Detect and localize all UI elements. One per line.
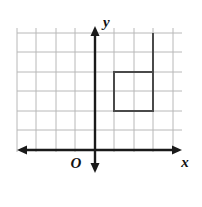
coordinate-grid-figure: y x O <box>0 0 202 207</box>
y-axis-arrow-up-icon <box>91 26 100 36</box>
origin-label: O <box>71 155 82 171</box>
graph-canvas: y x O <box>0 0 202 207</box>
grid-lines-horizontal <box>17 33 182 130</box>
y-axis-arrow-down-icon <box>91 163 100 173</box>
x-axis-label: x <box>180 154 189 170</box>
y-axis-label: y <box>101 14 110 30</box>
x-axis <box>17 146 182 155</box>
x-axis-arrow-left-icon <box>17 146 27 155</box>
